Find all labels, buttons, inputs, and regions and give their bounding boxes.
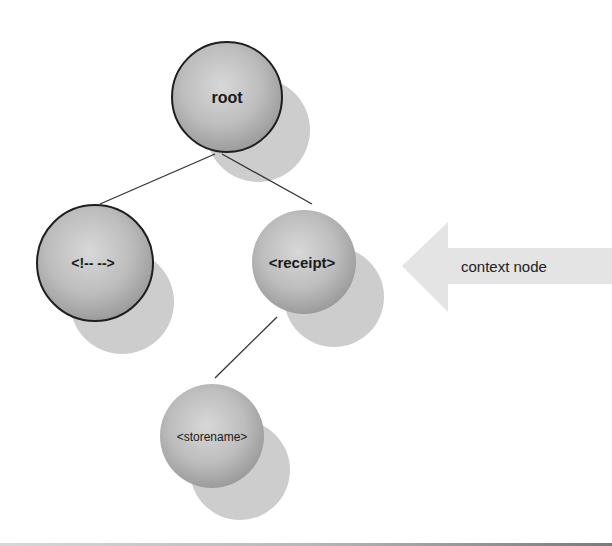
node-storename-label: <storename> [177, 430, 248, 444]
node-receipt-label: <receipt> [269, 254, 336, 271]
edge-receipt-storename [215, 317, 277, 378]
node-comment-label: <!-- --> [71, 255, 115, 271]
node-storename: <storename> [160, 384, 264, 488]
node-root-label: root [211, 89, 243, 106]
edge-root-comment [100, 154, 215, 204]
context-node-label: context node [461, 258, 547, 275]
node-comment: <!-- --> [37, 205, 153, 321]
tree-diagram: root <!-- --> <receipt> <storename> cont… [0, 0, 612, 546]
context-node-pointer: context node [402, 222, 612, 312]
node-root: root [172, 42, 282, 152]
node-receipt: <receipt> [252, 210, 356, 314]
